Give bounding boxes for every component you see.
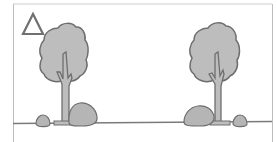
tree-scene	[0, 0, 277, 142]
rock-large	[184, 106, 214, 126]
triangle-outline-icon	[23, 14, 43, 34]
rock-small	[36, 115, 50, 127]
rock-large	[69, 103, 97, 126]
rock-small	[233, 115, 247, 127]
tree-left	[36, 23, 97, 126]
diagram-canvas	[0, 0, 277, 142]
tree-right	[184, 23, 247, 127]
